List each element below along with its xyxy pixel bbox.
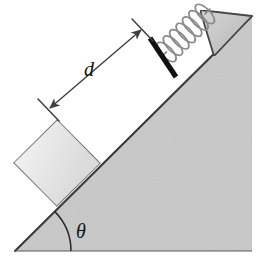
physics-diagram-figure: θ — [0, 0, 269, 268]
distance-label: d — [84, 58, 95, 80]
diagram-canvas: θ — [0, 0, 269, 268]
angle-label: θ — [76, 220, 86, 242]
